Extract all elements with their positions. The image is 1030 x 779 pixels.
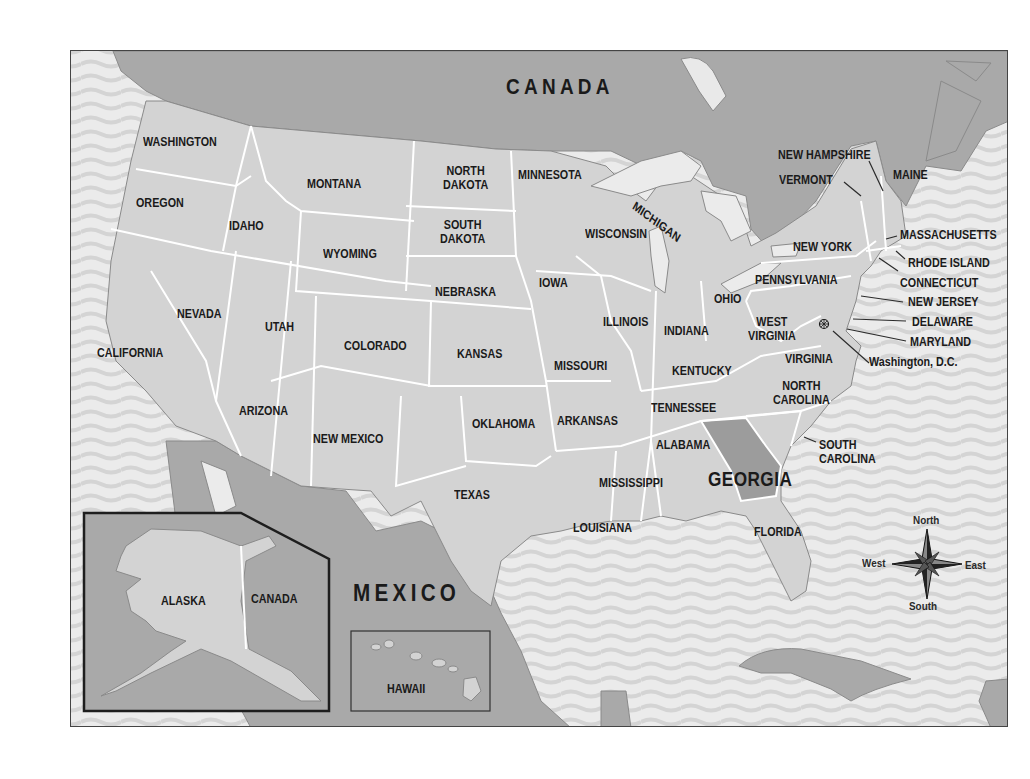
label-mississippi: MISSISSIPPI — [599, 476, 663, 490]
label-delaware: DELAWARE — [912, 315, 973, 329]
label-nebraska: NEBRASKA — [435, 285, 496, 299]
label-new-hampshire: NEW HAMPSHIRE — [778, 148, 871, 162]
label-oregon: OREGON — [136, 196, 184, 210]
label-wyoming: WYOMING — [323, 247, 377, 261]
label-maine: MAINE — [893, 168, 928, 182]
label-washington: WASHINGTON — [143, 135, 217, 149]
label-alaska: ALASKA — [161, 594, 206, 608]
label-missouri: MISSOURI — [554, 359, 607, 373]
label-utah: UTAH — [265, 320, 294, 334]
label-arizona: ARIZONA — [239, 404, 288, 418]
label-canada: CANADA — [506, 75, 614, 99]
us-map: CANADA MEXICO CANADA WASHINGTON OREGON C… — [70, 50, 1008, 727]
label-pennsylvania: PENNSYLVANIA — [755, 273, 838, 287]
label-minnesota: MINNESOTA — [518, 168, 582, 182]
label-georgia: GEORGIA — [708, 468, 792, 490]
label-tennessee: TENNESSEE — [651, 401, 716, 415]
label-colorado: COLORADO — [344, 339, 407, 353]
hawaii-inset — [351, 631, 490, 711]
compass-east-label: East — [965, 558, 986, 572]
label-alabama: ALABAMA — [656, 438, 710, 452]
label-wisconsin: WISCONSIN — [585, 227, 647, 241]
label-new-york: NEW YORK — [793, 240, 852, 254]
label-kentucky: KENTUCKY — [672, 364, 732, 378]
label-ohio: OHIO — [714, 292, 741, 306]
label-illinois: ILLINOIS — [603, 315, 648, 329]
compass-west-label: West — [862, 556, 885, 570]
label-nevada: NEVADA — [177, 307, 222, 321]
label-canada-inset: CANADA — [251, 592, 298, 606]
alaska-inset — [84, 513, 329, 711]
label-new-mexico: NEW MEXICO — [313, 432, 383, 446]
label-massachusetts: MASSACHUSETTS — [900, 228, 997, 242]
label-new-jersey: NEW JERSEY — [908, 295, 978, 309]
label-maryland: MARYLAND — [910, 335, 971, 349]
label-california: CALIFORNIA — [97, 346, 163, 360]
label-arkansas: ARKANSAS — [557, 414, 618, 428]
label-montana: MONTANA — [307, 177, 361, 191]
label-iowa: IOWA — [539, 276, 568, 290]
label-louisiana: LOUISIANA — [573, 521, 632, 535]
label-texas: TEXAS — [454, 488, 490, 502]
label-west-virginia: WEST VIRGINIA — [748, 315, 796, 343]
label-rhode-island: RHODE ISLAND — [908, 256, 990, 270]
compass-north-label: North — [913, 513, 939, 527]
label-vermont: VERMONT — [779, 173, 833, 187]
label-mexico: MEXICO — [353, 581, 460, 605]
label-idaho: IDAHO — [229, 219, 264, 233]
label-oklahoma: OKLAHOMA — [472, 417, 535, 431]
label-hawaii: HAWAII — [387, 682, 425, 696]
label-north-dakota: NORTH DAKOTA — [443, 164, 488, 192]
label-connecticut: CONNECTICUT — [900, 276, 978, 290]
label-south-carolina: SOUTH CAROLINA — [819, 438, 876, 466]
label-south-dakota: SOUTH DAKOTA — [440, 218, 485, 246]
label-indiana: INDIANA — [664, 324, 709, 338]
label-virginia: VIRGINIA — [785, 352, 833, 366]
capital-star-icon — [820, 320, 829, 329]
label-florida: FLORIDA — [754, 525, 802, 539]
compass-rose-icon — [892, 529, 962, 599]
compass-south-label: South — [909, 599, 937, 613]
label-kansas: KANSAS — [457, 347, 502, 361]
label-washington-dc: Washington, D.C. — [869, 355, 958, 369]
label-north-carolina: NORTH CAROLINA — [773, 379, 830, 407]
